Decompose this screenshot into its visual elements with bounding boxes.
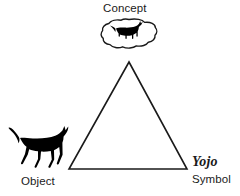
- object-label: Object: [21, 176, 55, 188]
- semiotic-triangle-diagram: Concept Object Yojo Symbol: [0, 0, 240, 196]
- symbol-word-yojo: Yojo: [192, 155, 218, 169]
- symbol-label: Symbol: [192, 174, 231, 186]
- triangle-shape: [69, 62, 187, 169]
- cat-silhouette-large-icon: [9, 126, 69, 168]
- concept-label: Concept: [103, 3, 147, 15]
